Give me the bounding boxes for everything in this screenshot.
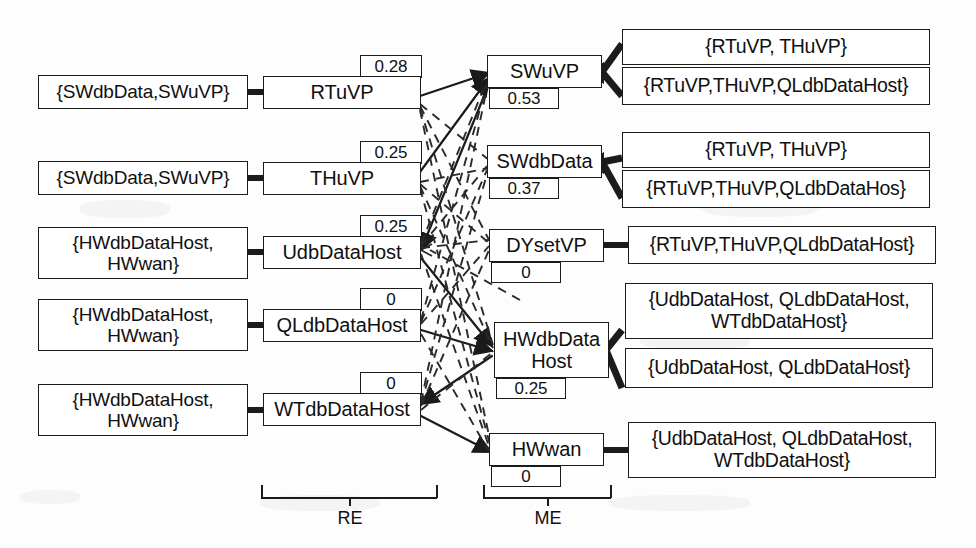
re-node-udbdatahost: UdbDataHost bbox=[263, 236, 421, 269]
value-box-swdbdata: 0.37 bbox=[489, 178, 559, 199]
precondition-box-thuvp: {SWdbData,SWuVP} bbox=[38, 161, 248, 195]
re-node-wtdbdatahost: WTdbDataHost bbox=[263, 393, 421, 426]
re-node-thuvp: THuVP bbox=[263, 162, 421, 195]
effect-box-hwdbdatahost-1: {UdbDataHost, QLdbDataHost, WTdbDataHost… bbox=[625, 283, 933, 339]
precondition-box-qldbdatahost: {HWdbDataHost, HWwan} bbox=[38, 299, 248, 351]
re-node-qldbdatahost: QLdbDataHost bbox=[263, 309, 421, 342]
me-node-swuvp: SWuVP bbox=[487, 55, 602, 88]
value-box-qldbdatahost: 0 bbox=[360, 288, 422, 311]
precondition-box-udbdatahost: {HWdbDataHost, HWwan} bbox=[38, 227, 248, 279]
value-box-hwwan: 0 bbox=[491, 466, 561, 487]
value-box-rtuvp: 0.28 bbox=[360, 55, 422, 78]
value-box-wtdbdatahost: 0 bbox=[360, 372, 422, 395]
precondition-box-rtuvp: {SWdbData,SWuVP} bbox=[38, 75, 248, 109]
effect-box-hwdbdatahost-2: {UdbDataHost, QLdbDataHost} bbox=[625, 348, 933, 388]
me-node-swdbdata: SWdbData bbox=[487, 145, 602, 178]
me-node-hwwan: HWwan bbox=[489, 433, 604, 466]
effect-box-swdbdata-2: {RTuVP,THuVP,QLdbDataHos} bbox=[622, 170, 930, 208]
effect-box-swuvp-1: {RTuVP, THuVP} bbox=[622, 29, 930, 65]
me-node-dysetvp: DYsetVP bbox=[489, 229, 604, 262]
value-box-swuvp: 0.53 bbox=[489, 88, 559, 109]
precondition-box-wtdbdatahost: {HWdbDataHost, HWwan} bbox=[38, 384, 248, 436]
group-label-re: RE bbox=[320, 508, 380, 529]
effect-box-swdbdata-1: {RTuVP, THuVP} bbox=[622, 132, 930, 168]
group-label-me: ME bbox=[518, 508, 578, 529]
re-node-rtuvp: RTuVP bbox=[263, 76, 421, 109]
diagram-canvas: {SWdbData,SWuVP} {SWdbData,SWuVP} {HWdbD… bbox=[0, 0, 976, 548]
value-box-dysetvp: 0 bbox=[491, 262, 561, 283]
value-box-thuvp: 0.25 bbox=[360, 141, 422, 164]
me-node-hwdbdatahost: HWdbData Host bbox=[494, 322, 609, 378]
value-box-udbdatahost: 0.25 bbox=[360, 215, 422, 238]
effect-box-hwwan-1: {UdbDataHost, QLdbDataHost, WTdbDataHost… bbox=[628, 422, 936, 478]
effect-box-dysetvp-1: {RTuVP,THuVP,QLdbDataHost} bbox=[628, 226, 936, 264]
effect-box-swuvp-2: {RTuVP,THuVP,QLdbDataHost} bbox=[622, 67, 930, 105]
value-box-hwdbdatahost: 0.25 bbox=[496, 378, 566, 399]
